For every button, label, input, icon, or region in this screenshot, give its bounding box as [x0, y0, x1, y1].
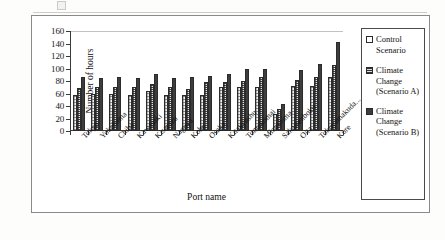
x-axis-tick	[70, 131, 71, 135]
chart-legend: Control Scenario Climate Change (Scenari…	[361, 28, 425, 200]
y-axis-tick-label: 80	[55, 76, 64, 86]
legend-label: Control Scenario	[376, 34, 421, 55]
y-axis-tick	[66, 69, 70, 70]
y-axis-tick	[66, 31, 70, 32]
scan-rule-line	[33, 12, 427, 13]
y-axis-tick-label: 160	[51, 26, 64, 36]
y-axis-tick-label: 60	[55, 89, 64, 99]
chart-screenshot: Number of hours 020406080100120140160 To…	[0, 0, 445, 240]
y-axis-tick-label: 120	[51, 51, 64, 61]
y-axis-line	[70, 31, 71, 131]
legend-item-climate-change-scenario-b: Climate Change (Scenario B)	[366, 106, 421, 138]
hatched-square-icon	[366, 67, 373, 74]
bar-group	[310, 64, 322, 132]
y-axis-tick	[66, 56, 70, 57]
plot-top-border	[70, 31, 343, 32]
bar-2	[318, 64, 322, 132]
y-axis-tick	[66, 94, 70, 95]
x-axis-title: Port name	[70, 192, 343, 202]
y-axis-tick	[66, 119, 70, 120]
bar-2	[81, 77, 85, 131]
legend-item-climate-change-scenario-a: Climate Change (Scenario A)	[366, 65, 421, 97]
y-axis-tick	[66, 44, 70, 45]
filled-square-icon	[366, 108, 373, 115]
bar-group	[73, 77, 85, 131]
y-axis-tick-label: 40	[55, 101, 64, 111]
y-axis-tick-label: 20	[55, 114, 64, 124]
scan-artifact-icon	[57, 1, 66, 10]
legend-label: Climate Change (Scenario B)	[376, 106, 421, 138]
bar-2	[227, 74, 231, 131]
legend-item-control-scenario: Control Scenario	[366, 34, 421, 55]
legend-label: Climate Change (Scenario A)	[376, 65, 421, 97]
y-axis-tick	[66, 81, 70, 82]
y-axis-tick-label: 100	[51, 64, 64, 74]
bar-2	[99, 78, 103, 131]
bar-2	[136, 78, 140, 131]
y-axis-tick	[66, 106, 70, 107]
bar-2	[208, 76, 212, 131]
open-square-icon	[366, 36, 373, 43]
y-axis-tick-label: 140	[51, 39, 64, 49]
y-axis-tick-label: 0	[60, 126, 64, 136]
